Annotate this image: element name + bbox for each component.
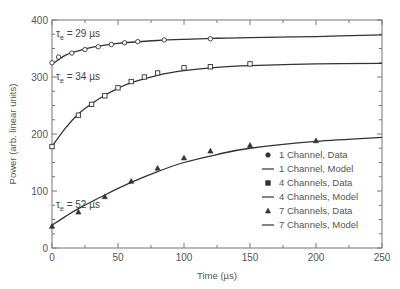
triangle-marker: [247, 143, 252, 148]
x-tick-label: 0: [49, 252, 55, 263]
triangle-marker: [265, 208, 270, 213]
y-tick-label: 300: [31, 72, 48, 83]
circle-marker: [122, 41, 126, 45]
square-marker: [50, 144, 54, 148]
tau-annotation: τe = 52 µs: [56, 199, 100, 212]
triangle-marker: [313, 138, 318, 143]
legend-label: 7 Channels, Data: [279, 205, 353, 216]
square-marker: [76, 113, 80, 117]
x-tick-label: 100: [176, 252, 193, 263]
tau-annotation: τe = 34 µs: [56, 71, 100, 84]
y-tick-label: 0: [42, 243, 48, 254]
circle-marker: [83, 47, 87, 51]
model-curve: [52, 63, 382, 146]
square-marker: [155, 71, 159, 75]
y-axis-title: Power (arb. linear units): [7, 84, 18, 185]
y-tick-label: 100: [31, 186, 48, 197]
y-tick-label: 400: [31, 15, 48, 26]
square-marker: [182, 66, 186, 70]
legend-label: 4 Channels, Data: [279, 177, 353, 188]
legend-label: 1 Channel, Model: [279, 163, 353, 174]
x-tick-label: 150: [242, 252, 259, 263]
tau-annotation: τe = 29 µs: [56, 28, 100, 41]
circle-marker: [56, 55, 60, 59]
circle-marker: [266, 153, 270, 157]
power-vs-time-chart: 0501001502002500100200300400 τe = 29 µsτ…: [0, 0, 400, 289]
square-marker: [266, 181, 270, 185]
circle-marker: [136, 39, 140, 43]
x-tick-label: 50: [112, 252, 124, 263]
legend: 1 Channel, Data1 Channel, Model4 Channel…: [262, 149, 358, 230]
circle-marker: [162, 38, 166, 42]
x-tick-label: 250: [374, 252, 391, 263]
triangle-marker: [181, 155, 186, 160]
square-marker: [89, 102, 93, 106]
circle-marker: [50, 61, 54, 65]
square-marker: [129, 79, 133, 83]
square-marker: [142, 75, 146, 79]
square-marker: [103, 94, 107, 98]
x-axis-title: Time (µs): [197, 270, 237, 281]
tau-annotations: τe = 29 µsτe = 34 µsτe = 52 µs: [56, 28, 100, 212]
circle-marker: [96, 45, 100, 49]
triangle-marker: [129, 179, 134, 184]
square-marker: [116, 86, 120, 90]
x-tick-label: 200: [308, 252, 325, 263]
legend-label: 1 Channel, Data: [279, 149, 348, 160]
circle-marker: [208, 37, 212, 41]
circle-marker: [70, 51, 74, 55]
square-marker: [248, 62, 252, 66]
model-curve: [52, 35, 382, 65]
y-tick-label: 200: [31, 129, 48, 140]
triangle-marker: [208, 148, 213, 153]
triangle-marker: [155, 165, 160, 170]
circle-marker: [109, 42, 113, 46]
legend-label: 4 Channels, Model: [279, 191, 358, 202]
legend-label: 7 Channels, Model: [279, 219, 358, 230]
square-marker: [208, 65, 212, 69]
